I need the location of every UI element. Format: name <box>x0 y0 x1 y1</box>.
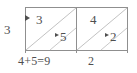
cell-1-bottom-digit: 5 <box>60 30 67 43</box>
cell-2-top-digit: 4 <box>90 13 97 26</box>
cell-2-diagonal <box>77 8 127 50</box>
bottom-sum-left: 4+5=9 <box>18 55 51 67</box>
cell-2-bottom-digit: 2 <box>110 30 117 43</box>
lattice-multiplication-figure: 3 3 5 4 2 4+5=9 2 <box>0 0 137 73</box>
cell-1-diagonal <box>26 8 76 50</box>
cell-1-top-digit: 3 <box>36 13 43 26</box>
left-multiplicand-label: 3 <box>4 23 11 36</box>
bottom-sum-right: 2 <box>88 55 94 67</box>
carry-arrow-icon-left <box>25 15 30 21</box>
carry-arrow-icon-cell-1 <box>55 33 59 37</box>
carry-arrow-icon-cell-2 <box>105 33 109 37</box>
